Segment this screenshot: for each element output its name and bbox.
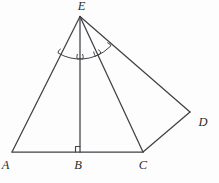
vertex-label-C: C bbox=[139, 158, 148, 172]
geometry-figure: E A B C D bbox=[0, 0, 219, 183]
vertex-label-E: E bbox=[77, 0, 86, 13]
vertex-label-D: D bbox=[197, 115, 207, 129]
figure-background bbox=[0, 0, 219, 183]
vertex-label-B: B bbox=[74, 158, 82, 172]
geometry-canvas: E A B C D bbox=[0, 0, 219, 183]
vertex-label-A: A bbox=[1, 158, 10, 172]
